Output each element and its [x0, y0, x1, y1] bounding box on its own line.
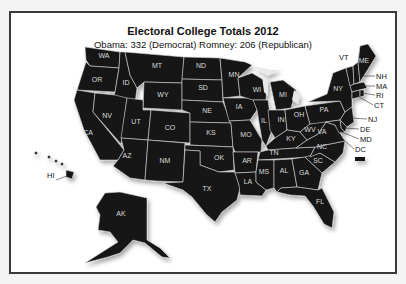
state-label-VA: VA — [318, 128, 327, 135]
state-label-NH: NH — [376, 72, 387, 81]
state-label-AR: AR — [242, 157, 252, 164]
state-label-WI: WI — [253, 86, 262, 93]
state-label-MO: MO — [240, 131, 252, 138]
state-label-OK: OK — [214, 154, 224, 161]
lake-superior — [252, 66, 280, 76]
states-group — [35, 44, 377, 263]
state-label-ME: ME — [359, 57, 370, 64]
state-label-CA: CA — [83, 129, 93, 136]
state-label-ND: ND — [196, 62, 206, 69]
state-label-NJ: NJ — [368, 115, 377, 124]
state-label-NV: NV — [102, 112, 112, 119]
state-label-IN: IN — [278, 116, 285, 123]
state-label-IA: IA — [236, 103, 243, 110]
state-AK[interactable] — [85, 192, 170, 263]
state-label-WY: WY — [157, 91, 169, 98]
state-label-AZ: AZ — [123, 152, 133, 159]
state-label-CO: CO — [165, 124, 176, 131]
state-label-TN: TN — [269, 149, 278, 156]
state-label-WA: WA — [98, 52, 109, 59]
state-FL[interactable] — [277, 187, 334, 228]
state-label-DC: DC — [355, 145, 366, 154]
state-label-WV: WV — [304, 126, 316, 133]
state-label-AK: AK — [116, 210, 126, 217]
state-label-MD: MD — [360, 135, 372, 144]
state-label-KS: KS — [206, 129, 216, 136]
state-label-CT: CT — [374, 101, 384, 110]
state-label-AL: AL — [280, 167, 289, 174]
state-label-MN: MN — [229, 71, 240, 78]
state-label-NE: NE — [202, 107, 212, 114]
state-label-GA: GA — [299, 169, 309, 176]
state-label-FL: FL — [316, 198, 324, 205]
state-label-PA: PA — [320, 106, 329, 113]
state-label-SC: SC — [313, 157, 323, 164]
state-label-MI: MI — [279, 91, 287, 98]
state-label-KY: KY — [286, 135, 296, 142]
state-label-NM: NM — [160, 157, 171, 164]
state-label-MT: MT — [152, 62, 163, 69]
state-label-TX: TX — [203, 185, 212, 192]
state-label-NY: NY — [333, 85, 343, 92]
dc-marker — [355, 157, 365, 161]
us-map: WAORCAIDNVMTWYUTAZCONMNDSDNEKSOKTXMNIAMO… — [0, 0, 406, 284]
state-label-ID: ID — [123, 79, 130, 86]
state-label-IL: IL — [261, 117, 267, 124]
state-label-VT: VT — [339, 53, 349, 62]
state-label-MS: MS — [259, 168, 270, 175]
state-label-RI: RI — [376, 91, 384, 100]
hi-leader — [56, 176, 67, 180]
state-label-UT: UT — [131, 118, 141, 125]
state-label-MA: MA — [376, 82, 387, 91]
state-label-LA: LA — [244, 178, 253, 185]
state-label-SD: SD — [198, 84, 208, 91]
state-label-OR: OR — [92, 76, 103, 83]
state-label-NC: NC — [317, 143, 327, 150]
callout-leader-CT — [356, 95, 373, 105]
state-label-DE: DE — [360, 125, 370, 134]
state-label-HI: HI — [47, 171, 55, 180]
state-label-OH: OH — [294, 111, 305, 118]
